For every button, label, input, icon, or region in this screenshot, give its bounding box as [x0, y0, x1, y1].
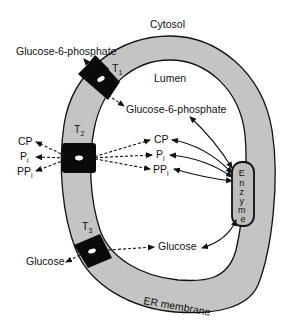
er-glucose-6-phosphatase-diagram: T1 T2 T3 E n z y m e Cytosol Lumen ER me…	[0, 0, 285, 333]
lumen-ppi-label: PPi	[153, 163, 169, 177]
lumen-g6p-label: Glucose-6-phosphate	[126, 103, 227, 115]
cytosol-ppi-label: PPi	[17, 165, 33, 179]
cytosol-label: Cytosol	[150, 18, 185, 30]
lumen-cp-label: CP	[154, 133, 169, 145]
cytosol-glucose-label: Glucose	[26, 255, 65, 267]
t2-lumen-arrows	[90, 140, 152, 169]
lumen-label: Lumen	[154, 72, 186, 84]
cytosol-cp-label: CP	[18, 135, 33, 147]
lumen-pi-label: Pi	[156, 148, 165, 162]
cytosol-pi-label: Pi	[20, 150, 29, 164]
enzyme-arrows	[170, 117, 236, 248]
cytosol-g6p-label: Glucose-6-phosphate	[16, 45, 117, 57]
lumen-glucose-label: Glucose	[158, 240, 197, 252]
